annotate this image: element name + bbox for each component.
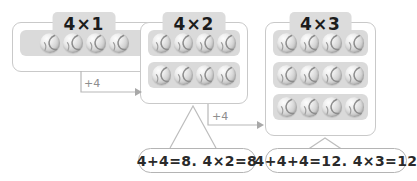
ball-icon [40,33,60,53]
equation-pill-2: 4+4+4=12. 4×3=12 [265,148,407,173]
ball-row [20,30,148,56]
ball-icon [322,33,342,53]
ball-icon [277,97,297,117]
ball-icon [174,65,193,85]
ball-icon [174,33,193,53]
group-card-3: 4×3 [265,22,376,136]
ball-icon [300,33,320,53]
group-body-1 [13,23,155,63]
ball-icon [345,97,365,117]
ball-icon [86,33,106,53]
connector-label-1: +4 [84,77,100,90]
ball-icon [345,33,365,53]
ball-icon [277,65,297,85]
ball-icon [322,65,342,85]
ball-icon [196,65,215,85]
ball-row [273,94,368,120]
ball-icon [300,65,320,85]
ball-row [148,30,240,56]
ball-icon [152,33,171,53]
ball-row [148,62,240,88]
ball-icon [217,65,236,85]
ball-row [273,30,368,56]
ball-row [273,62,368,88]
multiplication-array-diagram: 4×1 4×2 4×3 +4 +4 [0,0,417,181]
ball-icon [152,65,171,85]
group-body-3 [266,23,375,127]
ball-icon [109,33,129,53]
group-card-2: 4×2 [140,22,248,104]
ball-icon [217,33,236,53]
group-body-2 [141,23,247,95]
ball-icon [277,33,297,53]
ball-icon [63,33,83,53]
group-card-1: 4×1 [12,22,156,72]
ball-icon [322,97,342,117]
equation-pill-1: 4+4=8. 4×2=8 [138,148,256,173]
ball-icon [300,97,320,117]
ball-icon [345,65,365,85]
equation-brace-1 [168,104,220,148]
ball-icon [196,33,215,53]
